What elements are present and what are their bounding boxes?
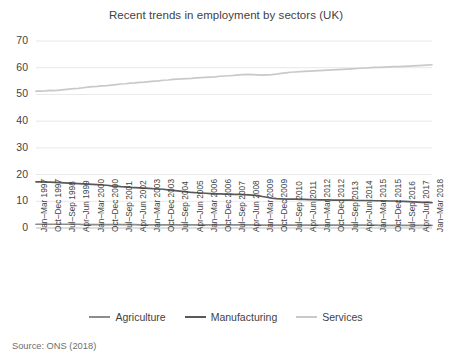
chart-container: Recent trends in employment by sectors (… [0,0,452,362]
legend-swatch-icon [296,316,317,318]
chart-plot-area [0,0,452,362]
legend-swatch-icon [89,316,110,318]
legend-item-agriculture[interactable]: Agriculture [89,312,165,323]
legend-label: Manufacturing [211,312,278,323]
source-note: Source: ONS (2018) [12,341,96,351]
legend-label: Services [322,312,362,323]
series-line-services [36,65,432,91]
legend-item-manufacturing[interactable]: Manufacturing [185,312,278,323]
chart-legend: AgricultureManufacturingServices [0,312,452,323]
legend-swatch-icon [185,316,206,318]
series-line-agriculture [36,224,432,225]
legend-label: Agriculture [115,312,165,323]
series-line-manufacturing [36,182,432,203]
legend-item-services[interactable]: Services [296,312,362,323]
